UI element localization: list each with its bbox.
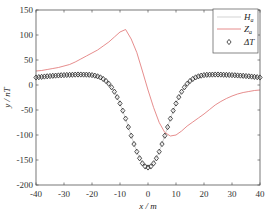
y-tick-label: -100 — [17, 130, 34, 140]
x-tick-label: -10 — [114, 189, 126, 199]
x-tick-label: 20 — [200, 189, 210, 199]
x-tick-label: 0 — [146, 189, 151, 199]
y-tick-label: 0 — [29, 80, 34, 90]
legend: HaZaΔT — [213, 9, 258, 53]
y-tick-label: -200 — [17, 180, 34, 190]
chart: -40-30-20-10010203040150100500-50-100-15… — [0, 0, 269, 214]
x-tick-label: -40 — [30, 189, 42, 199]
legend-label-subscript: a — [249, 29, 252, 35]
y-tick-label: -50 — [21, 105, 33, 115]
x-tick-label: -20 — [86, 189, 98, 199]
legend-label: ΔT — [243, 37, 255, 47]
y-axis-label: y / nT — [2, 86, 12, 108]
x-axis-label: x / m — [138, 201, 157, 211]
y-tick-label: 50 — [24, 55, 34, 65]
x-tick-label: -30 — [58, 189, 70, 199]
y-tick-label: 100 — [20, 30, 34, 40]
x-tick-label: 10 — [172, 189, 182, 199]
x-tick-label: 40 — [256, 189, 266, 199]
x-tick-label: 30 — [228, 189, 238, 199]
y-tick-label: 150 — [20, 5, 34, 15]
legend-label-subscript: a — [251, 17, 254, 23]
y-tick-label: -150 — [17, 155, 34, 165]
